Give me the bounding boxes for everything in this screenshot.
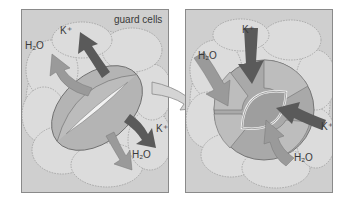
k-label-top: K⁺ xyxy=(242,25,254,35)
closed-stoma-illustration xyxy=(186,10,333,193)
closed-stoma-panel: K⁺ H₂O K⁺ H₂O xyxy=(185,9,333,193)
h2o-label-left: H₂O xyxy=(198,51,217,61)
h2o-label-bottom: H₂O xyxy=(294,153,313,163)
open-stoma-panel: guard cells K⁺ H₂O K⁺ H₂O xyxy=(21,9,169,193)
h2o-label-top: H₂O xyxy=(25,41,44,51)
k-label-top: K⁺ xyxy=(60,26,72,36)
h2o-label-bottom: H₂O xyxy=(132,150,151,160)
open-stoma-illustration xyxy=(22,10,169,193)
k-label-right: K⁺ xyxy=(321,122,333,132)
guard-cells-label: guard cells xyxy=(114,15,162,25)
